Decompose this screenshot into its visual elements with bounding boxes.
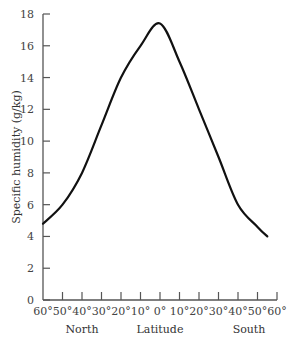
x-axis: 60°50°40°30°20°10°0°10°20°30°40°50°60°	[33, 292, 287, 318]
y-tick-label: 14	[20, 72, 34, 85]
y-tick-label: 16	[20, 40, 34, 53]
x-tick-label: 30°	[209, 305, 229, 318]
x-group-label-south: South	[233, 323, 266, 336]
y-tick-label: 18	[20, 8, 34, 21]
humidity-curve	[43, 23, 267, 236]
y-axis-title: Specific humidity (g/kg)	[10, 90, 23, 224]
x-tick-label: 50°	[53, 305, 73, 318]
x-tick-label: 50°	[248, 305, 268, 318]
y-tick-label: 2	[27, 262, 34, 275]
x-axis-title: Latitude	[137, 323, 184, 336]
x-tick-label: 10°	[170, 305, 190, 318]
y-tick-label: 4	[27, 230, 34, 243]
humidity-chart: 024681012141618 60°50°40°30°20°10°0°10°2…	[0, 0, 297, 350]
x-tick-label: 10°	[131, 305, 151, 318]
y-tick-label: 8	[27, 167, 34, 180]
x-tick-label: 20°	[189, 305, 209, 318]
x-tick-label: 30°	[92, 305, 112, 318]
y-axis: 024681012141618	[20, 8, 50, 307]
x-tick-label: 20°	[111, 305, 131, 318]
y-tick-label: 6	[27, 199, 34, 212]
x-tick-label: 0°	[154, 305, 167, 318]
x-tick-label: 40°	[228, 305, 248, 318]
x-tick-label: 40°	[72, 305, 92, 318]
x-tick-label: 60°	[267, 305, 287, 318]
x-group-label-north: North	[65, 323, 98, 336]
x-tick-label: 60°	[33, 305, 53, 318]
